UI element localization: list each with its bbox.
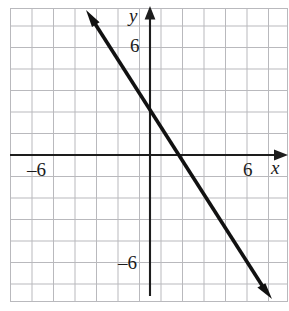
x-axis-tick-label-negative-six: –6 — [27, 160, 46, 179]
x-axis-variable-label: x — [271, 158, 279, 177]
y-axis-tick-label-positive-six: 6 — [130, 36, 140, 55]
coordinate-plane-figure: –6 6 6 –6 x y — [0, 0, 289, 311]
x-axis-tick-label-positive-six: 6 — [243, 160, 253, 179]
y-axis-variable-label: y — [129, 6, 137, 25]
graph-canvas — [0, 0, 289, 311]
y-axis-tick-label-negative-six: –6 — [118, 253, 137, 272]
